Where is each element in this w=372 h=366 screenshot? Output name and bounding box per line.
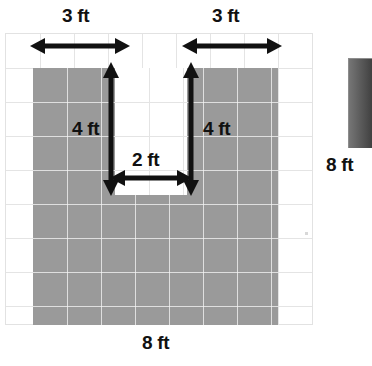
diagram-canvas: Find the area. (0, 0, 372, 366)
double-arrow-horizontal-icon (110, 168, 192, 188)
dimension-label-right-height: 8 ft (326, 155, 353, 174)
scan-artifact (305, 232, 308, 235)
cropped-heading-sliver: Find the area. (2, 0, 74, 4)
double-arrow-horizontal-icon (30, 36, 130, 56)
grid-line-vertical (278, 34, 279, 324)
cropped-heading-text: Find the area. (2, 0, 74, 3)
dimension-label-notch-width: 2 ft (132, 150, 159, 169)
dimension-label-right-arm-height: 4 ft (203, 119, 230, 138)
dimension-label-top-right-width: 3 ft (212, 6, 239, 25)
dimension-label-top-left-width: 3 ft (62, 6, 89, 25)
dimension-label-bottom-width: 8 ft (142, 333, 169, 352)
shaded-region-base (33, 195, 278, 325)
dimension-label-left-arm-height: 4 ft (72, 119, 99, 138)
double-arrow-horizontal-icon (182, 36, 282, 56)
cropped-edge-bar (348, 58, 372, 148)
